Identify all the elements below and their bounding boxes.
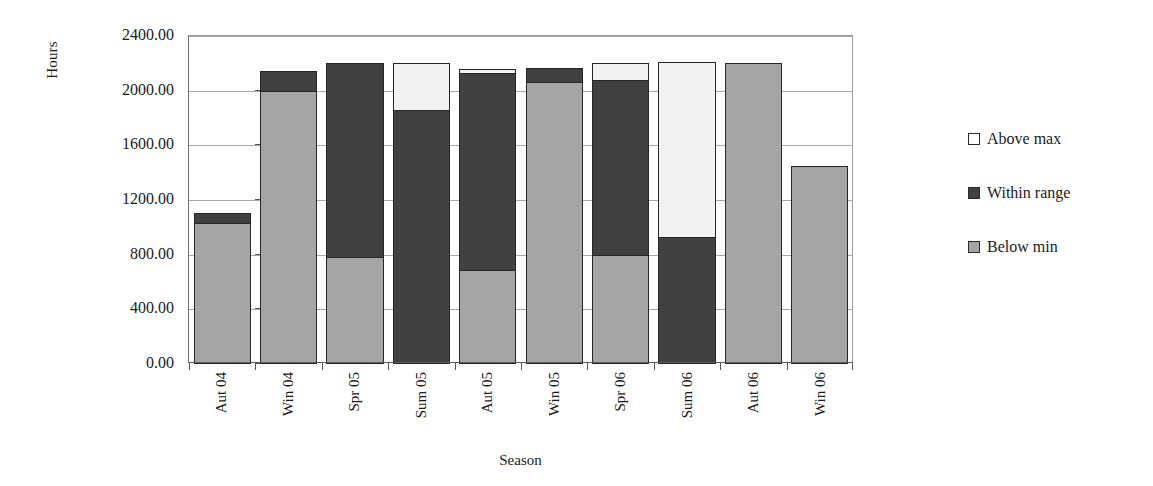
- stacked-bar[interactable]: [791, 166, 848, 363]
- y-axis-title: Hours: [44, 0, 61, 120]
- x-tick-mark: [720, 363, 721, 370]
- x-label-slot: Aut 06: [720, 370, 787, 465]
- bar-slot: [521, 36, 587, 363]
- y-tick-label: 400.00: [74, 300, 174, 316]
- x-axis-baseline: [189, 362, 853, 364]
- bar-segment-below[interactable]: [326, 257, 383, 364]
- stacked-bar[interactable]: [725, 63, 782, 363]
- plot-area: [188, 35, 853, 363]
- x-label-slot: Win 05: [521, 370, 588, 465]
- bar-slot: [255, 36, 321, 363]
- x-tick-label: Sum 05: [412, 372, 429, 418]
- x-label-slot: Aut 04: [188, 370, 255, 465]
- bar-segment-below[interactable]: [592, 255, 649, 364]
- x-label-slot: Spr 05: [321, 370, 388, 465]
- x-label-slot: Sum 05: [388, 370, 455, 465]
- stacked-bar[interactable]: [393, 63, 450, 363]
- stacked-bar[interactable]: [526, 68, 583, 363]
- bar-segment-within[interactable]: [260, 71, 317, 92]
- y-tick-label: 1600.00: [74, 136, 174, 152]
- x-tick-label: Aut 05: [479, 372, 496, 413]
- bar-segment-below[interactable]: [194, 223, 251, 364]
- x-tick-mark: [322, 363, 323, 370]
- y-tick-label: 800.00: [74, 246, 174, 262]
- bar-segment-below[interactable]: [526, 82, 583, 364]
- bar-segment-within[interactable]: [326, 63, 383, 258]
- bar-slot: [388, 36, 454, 363]
- x-tick-mark: [654, 363, 655, 370]
- bar-slot: [189, 36, 255, 363]
- legend-swatch-icon: [968, 241, 980, 253]
- bar-group: [189, 36, 853, 363]
- legend-item[interactable]: Within range: [968, 184, 1148, 202]
- bar-segment-above[interactable]: [592, 63, 649, 81]
- x-tick-mark: [521, 363, 522, 370]
- x-label-slot: Win 04: [255, 370, 322, 465]
- stacked-bar[interactable]: [658, 62, 715, 363]
- x-tick-mark: [189, 363, 190, 370]
- legend-swatch-icon: [968, 133, 980, 145]
- x-axis-labels: Aut 04Win 04Spr 05Sum 05Aut 05Win 05Spr …: [188, 370, 853, 465]
- legend-label: Below min: [987, 238, 1058, 256]
- bar-segment-within[interactable]: [459, 73, 516, 271]
- y-tick-label: 2400.00: [74, 27, 174, 43]
- x-axis-title: Season: [188, 452, 853, 469]
- x-tick-label: Sum 06: [678, 372, 695, 418]
- x-tick-mark: [255, 363, 256, 370]
- bar-slot: [720, 36, 786, 363]
- y-tick-label: 0.00: [74, 355, 174, 371]
- x-tick-label: Aut 06: [745, 372, 762, 413]
- bar-segment-below[interactable]: [459, 270, 516, 364]
- y-tick-label: 1200.00: [74, 191, 174, 207]
- bar-slot: [322, 36, 388, 363]
- bar-segment-below[interactable]: [725, 63, 782, 364]
- bar-slot: [455, 36, 521, 363]
- x-tick-mark: [388, 363, 389, 370]
- x-label-slot: Sum 06: [654, 370, 721, 465]
- legend-item[interactable]: Below min: [968, 238, 1148, 256]
- x-tick-label: Spr 06: [612, 372, 629, 412]
- x-tick-label: Aut 04: [213, 372, 230, 413]
- stacked-bar[interactable]: [459, 69, 516, 363]
- x-label-slot: Spr 06: [587, 370, 654, 465]
- bar-segment-within[interactable]: [592, 80, 649, 256]
- x-tick-label: Win 06: [811, 372, 828, 416]
- bar-slot: [787, 36, 853, 363]
- bar-segment-below[interactable]: [260, 91, 317, 364]
- legend-label: Within range: [987, 184, 1070, 202]
- bar-slot: [587, 36, 653, 363]
- legend-swatch-icon: [968, 187, 980, 199]
- y-tick-label: 2000.00: [74, 82, 174, 98]
- stacked-bar[interactable]: [592, 63, 649, 363]
- x-label-slot: Win 06: [787, 370, 854, 465]
- bar-segment-above[interactable]: [393, 63, 450, 111]
- legend-item[interactable]: Above max: [968, 130, 1148, 148]
- x-tick-label: Win 05: [545, 372, 562, 416]
- bar-segment-within[interactable]: [658, 237, 715, 364]
- x-tick-mark: [852, 363, 853, 370]
- bar-segment-below[interactable]: [791, 166, 848, 364]
- x-tick-mark: [587, 363, 588, 370]
- bar-segment-within[interactable]: [526, 68, 583, 83]
- x-label-slot: Aut 05: [454, 370, 521, 465]
- bar-segment-within[interactable]: [393, 110, 450, 364]
- x-tick-mark: [787, 363, 788, 370]
- stacked-bar[interactable]: [260, 71, 317, 364]
- y-axis-ticks: 0.00400.00800.001200.001600.002000.00240…: [74, 0, 174, 486]
- x-tick-label: Win 04: [279, 372, 296, 416]
- stacked-bar[interactable]: [326, 63, 383, 363]
- stacked-bar-chart: Hours 0.00400.00800.001200.001600.002000…: [0, 0, 1153, 486]
- bar-segment-above[interactable]: [658, 62, 715, 238]
- chart-legend: Above maxWithin rangeBelow min: [968, 130, 1148, 292]
- bar-slot: [654, 36, 720, 363]
- x-tick-label: Spr 05: [346, 372, 363, 412]
- x-tick-mark: [455, 363, 456, 370]
- stacked-bar[interactable]: [194, 213, 251, 363]
- legend-label: Above max: [987, 130, 1061, 148]
